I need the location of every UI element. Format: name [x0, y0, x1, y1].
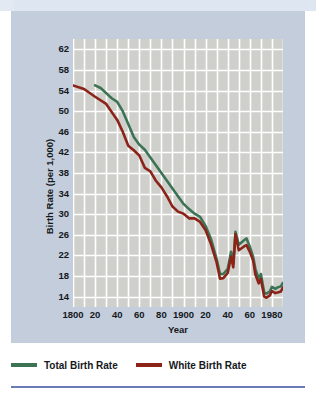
birth-rate-chart-figure: Birth Rate (per 1,000) 14182226303438424… [0, 0, 316, 406]
legend-label-white: White Birth Rate [169, 360, 247, 371]
y-tick-label: 26 [43, 230, 69, 240]
x-tick-label: 60 [245, 309, 256, 321]
bottom-rule [11, 386, 305, 388]
y-tick-label: 34 [43, 189, 69, 199]
legend-item-white[interactable]: White Birth Rate [136, 360, 247, 371]
x-tick-label: 20 [200, 309, 211, 321]
x-tick-label: 40 [222, 309, 233, 321]
plot-area [73, 39, 283, 307]
y-tick-label: 30 [43, 209, 69, 219]
x-tick-label: 1900 [173, 309, 194, 321]
y-tick-label: 38 [43, 168, 69, 178]
top-band-inner [14, 0, 316, 11]
y-tick-label: 22 [43, 250, 69, 260]
x-tick-label: 60 [134, 309, 145, 321]
chart-legend: Total Birth Rate White Birth Rate [11, 352, 305, 378]
legend-label-total: Total Birth Rate [44, 360, 118, 371]
x-axis-title: Year [73, 324, 283, 335]
y-tick-label: 18 [43, 271, 69, 281]
x-tick-labels: 18002040608019002040601980 [73, 309, 283, 325]
legend-swatch-total [11, 363, 37, 367]
y-tick-label: 14 [43, 292, 69, 302]
legend-item-total[interactable]: Total Birth Rate [11, 360, 118, 371]
x-tick-label: 20 [90, 309, 101, 321]
legend-swatch-white [136, 363, 162, 367]
plot-svg [73, 39, 283, 307]
y-tick-label: 58 [43, 65, 69, 75]
x-tick-label: 1980 [261, 309, 282, 321]
series-line-white [73, 85, 283, 297]
x-tick-label: 80 [156, 309, 167, 321]
x-tick-label: 40 [112, 309, 123, 321]
chart-panel: Birth Rate (per 1,000) 14182226303438424… [11, 11, 305, 343]
series-line-total [95, 85, 283, 293]
y-tick-label: 46 [43, 127, 69, 137]
y-tick-label: 54 [43, 86, 69, 96]
y-tick-label: 42 [43, 147, 69, 157]
y-tick-label: 62 [43, 44, 69, 54]
series-lines [73, 85, 283, 297]
top-band [0, 0, 316, 11]
gridlines [73, 39, 283, 307]
x-tick-label: 1800 [62, 309, 83, 321]
y-tick-labels: 14182226303438424650545862 [39, 39, 69, 307]
y-tick-label: 50 [43, 106, 69, 116]
panel-left-margin [0, 11, 11, 343]
